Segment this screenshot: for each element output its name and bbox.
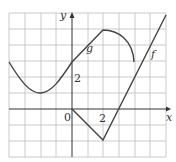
y-axis-label: y [59, 9, 67, 22]
curve-label-g: g [86, 42, 93, 55]
y-tick-label-2: 2 [74, 72, 81, 85]
origin-label: 0 [64, 111, 71, 124]
graph-figure: y x 0 2 2 g f [0, 0, 176, 162]
x-tick-label-2: 2 [99, 112, 106, 125]
x-axis-label: x [166, 111, 173, 124]
curve-label-f: f [150, 48, 157, 61]
coordinate-plane: y x 0 2 2 g f [0, 0, 176, 162]
grid-lines [9, 13, 166, 157]
